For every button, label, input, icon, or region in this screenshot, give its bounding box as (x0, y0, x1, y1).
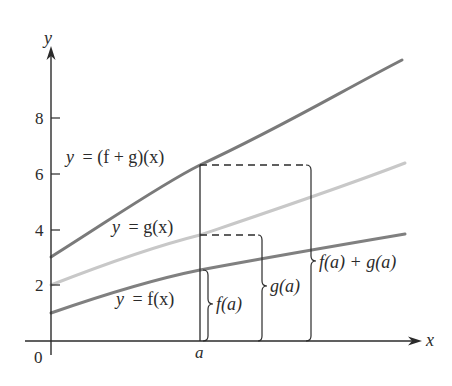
curve-label-f-rhs: = f(x) (133, 289, 175, 310)
brace-f-plus-g-a (306, 165, 316, 341)
brace-g-a (258, 235, 267, 341)
function-sum-diagram: y x 0 2 4 6 8 a f(a) g(a) f(a) + g(a) y … (0, 0, 452, 386)
a-tick-label: a (195, 343, 204, 362)
y-tick-label-2: 2 (35, 276, 44, 295)
y-tick-label-6: 6 (35, 165, 44, 184)
curve-label-f: y = f(x) (114, 289, 174, 310)
y-axis-label: y (42, 28, 52, 48)
curve-label-g-lhs: y (110, 217, 120, 237)
curve-label-g-rhs: = g(x) (129, 217, 174, 238)
brace-label-f-a: f(a) (216, 294, 242, 315)
curve-label-f-plus-g-lhs: y (64, 147, 74, 167)
y-tick-label-8: 8 (35, 109, 44, 128)
origin-label: 0 (34, 348, 43, 367)
y-tick-label-4: 4 (35, 221, 44, 240)
x-axis-label: x (425, 330, 434, 350)
brace-label-f-plus-g-a: f(a) + g(a) (319, 252, 396, 273)
curve-label-f-plus-g-rhs: = (f + g)(x) (83, 147, 165, 168)
brace-f-a (203, 270, 213, 341)
curve-label-f-lhs: y (114, 289, 124, 309)
curve-label-g: y = g(x) (110, 217, 173, 238)
brace-label-g-a: g(a) (270, 276, 300, 297)
curve-label-f-plus-g: y = (f + g)(x) (64, 147, 164, 168)
